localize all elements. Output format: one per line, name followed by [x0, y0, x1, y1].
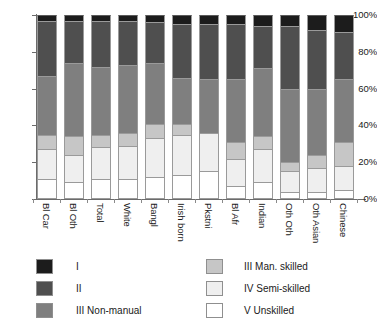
x-axis-tick-mark [60, 199, 61, 203]
bar-segment [280, 26, 300, 89]
bar-segment [199, 171, 219, 199]
plot-area [37, 15, 359, 199]
bar-segment [280, 171, 300, 191]
x-axis-label-white: White [122, 203, 132, 263]
x-axis-label-bl-car: Bl Car [41, 203, 51, 263]
x-axis-tick-mark [114, 199, 115, 203]
bar-segment [199, 24, 219, 79]
bar-segment [118, 21, 138, 65]
legend-swatch [206, 303, 223, 318]
x-axis-tick-mark [33, 199, 34, 203]
bar-segment [199, 79, 219, 132]
legend-label: I [76, 260, 79, 273]
bar-segment [118, 133, 138, 146]
bar-segment [37, 76, 57, 135]
legend-swatch [206, 259, 223, 274]
legend-label: IV Semi-skilled [244, 282, 310, 295]
bar-segment [64, 155, 84, 183]
bar-segment [172, 124, 192, 135]
bar-indian[interactable] [253, 15, 273, 199]
chart-legend: IIIIII Non-manualIII Man. skilledIV Semi… [36, 258, 372, 324]
x-axis-line [36, 199, 366, 200]
bar-segment [64, 63, 84, 137]
bar-bl-car[interactable] [37, 15, 57, 199]
bar-segment [334, 166, 354, 190]
bar-segment [64, 15, 84, 21]
bar-segment [172, 15, 192, 24]
x-axis-label-irish-born: Irish born [176, 203, 186, 263]
x-axis-label-indian: Indian [257, 203, 267, 263]
bar-segment [307, 155, 327, 168]
bar-pkstni[interactable] [199, 15, 219, 199]
x-axis-label-chinese: Chinese [338, 203, 348, 263]
x-axis-label-bl-oth: Bl Oth [68, 203, 78, 263]
bar-segment [199, 133, 219, 172]
bar-segment [253, 182, 273, 199]
bar-segment [37, 149, 57, 178]
bar-segment [253, 15, 273, 26]
bar-segment [307, 15, 327, 30]
x-axis-label-oth-oth: Oth Oth [284, 203, 294, 263]
bar-bangl[interactable] [145, 15, 165, 199]
bar-segment [334, 142, 354, 166]
bar-segment [253, 68, 273, 136]
stacked-bar-chart: 0%20%40%60%80%100% Bl CarBl OthTotalWhit… [0, 0, 377, 329]
bar-segment [118, 146, 138, 179]
bar-segment [253, 149, 273, 182]
x-axis-tick-mark [249, 199, 250, 203]
bar-segment [91, 15, 111, 21]
bar-bl-afr[interactable] [226, 15, 246, 199]
bar-segment [118, 15, 138, 21]
bar-segment [334, 79, 354, 142]
bar-segment [172, 175, 192, 199]
legend-label: III Non-manual [76, 304, 142, 317]
bar-segment [145, 63, 165, 124]
bar-oth-asian[interactable] [307, 15, 327, 199]
bar-bl-oth[interactable] [64, 15, 84, 199]
bar-segment [307, 89, 327, 155]
bar-chinese[interactable] [334, 15, 354, 199]
bar-oth-oth[interactable] [280, 15, 300, 199]
bar-segment [253, 26, 273, 68]
legend-swatch [36, 259, 53, 274]
bar-segment [37, 15, 57, 21]
bar-segment [145, 124, 165, 139]
x-axis-tick-mark [87, 199, 88, 203]
bar-segment [37, 21, 57, 76]
bar-segment [91, 179, 111, 199]
bar-segment [91, 135, 111, 148]
legend-label: III Man. skilled [244, 260, 308, 273]
x-axis-tick-mark [141, 199, 142, 203]
legend-swatch [36, 281, 53, 296]
bar-segment [91, 21, 111, 67]
bar-segment [145, 22, 165, 62]
bar-segment [280, 162, 300, 171]
x-axis-label-oth-asian: Oth Asian [311, 203, 321, 263]
bar-segment [334, 32, 354, 80]
x-axis-tick-mark [357, 199, 358, 203]
bar-white[interactable] [118, 15, 138, 199]
bar-segment [280, 15, 300, 26]
x-axis-label-bl-afr: Bl Afr [230, 203, 240, 263]
bar-segment [226, 24, 246, 79]
bar-segment [91, 147, 111, 178]
bar-irish-born[interactable] [172, 15, 192, 199]
bar-segment [91, 67, 111, 135]
bar-segment [199, 15, 219, 24]
x-axis-label-total: Total [95, 203, 105, 263]
bar-segment [226, 159, 246, 187]
bar-segment [226, 186, 246, 199]
bar-segment [145, 138, 165, 177]
bar-segment [172, 78, 192, 124]
bar-segment [280, 89, 300, 163]
x-axis-tick-mark [276, 199, 277, 203]
bar-total[interactable] [91, 15, 111, 199]
bar-segment [226, 15, 246, 24]
bar-segment [307, 30, 327, 89]
bar-segment [307, 168, 327, 192]
bar-segment [145, 177, 165, 199]
bar-segment [64, 21, 84, 63]
bar-segment [37, 135, 57, 150]
bar-segment [307, 192, 327, 199]
bar-segment [334, 190, 354, 199]
